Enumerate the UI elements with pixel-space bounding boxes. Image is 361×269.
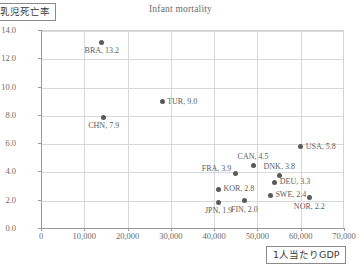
data-point-label: TUR, 9.0	[167, 97, 197, 106]
data-point-label: USA, 5.8	[306, 142, 336, 151]
data-point-label: CHN, 7.9	[88, 121, 119, 130]
x-axis-line	[41, 228, 345, 229]
gridline-horizontal	[41, 88, 343, 89]
gridline-vertical	[257, 31, 258, 228]
y-tick-mark	[38, 200, 41, 201]
gridline-horizontal	[41, 116, 343, 117]
data-point-label: NOR, 2.2	[294, 202, 325, 211]
y-tick-mark	[38, 143, 41, 144]
gridline-vertical	[84, 31, 85, 228]
data-point	[216, 200, 221, 205]
data-point-label: FIN, 2.0	[231, 205, 258, 214]
data-point-label: CAN, 4.5	[238, 152, 269, 161]
data-point-label: SWE, 2.4	[275, 190, 306, 199]
y-axis-line	[41, 30, 42, 229]
scatter-chart: 乳児死亡率 Infant mortality BRA, 13.2CHN, 7.9…	[0, 0, 361, 269]
x-tick-label: 70,000	[309, 231, 361, 241]
data-point-label: FRA, 3.9	[202, 164, 232, 173]
gridline-vertical	[128, 31, 129, 228]
gridline-horizontal	[41, 59, 343, 60]
data-point	[160, 99, 165, 104]
data-point	[99, 40, 104, 45]
y-tick-label: 12.0	[0, 53, 16, 63]
data-point-label: JPN, 1.9	[205, 206, 232, 215]
y-tick-mark	[38, 30, 41, 31]
y-tick-mark	[38, 87, 41, 88]
data-point	[233, 171, 238, 176]
data-point-label: DEU, 3.3	[280, 177, 310, 186]
data-point	[242, 198, 247, 203]
y-tick-label: 2.0	[0, 195, 16, 205]
data-point	[101, 115, 106, 120]
gridline-horizontal	[41, 172, 343, 173]
data-point-label: DNK, 3.8	[264, 162, 295, 171]
data-point	[268, 193, 273, 198]
y-tick-label: 8.0	[0, 110, 16, 120]
y-tick-mark	[38, 58, 41, 59]
y-tick-label: 6.0	[0, 138, 16, 148]
data-point	[307, 195, 312, 200]
y-tick-label: 14.0	[0, 25, 16, 35]
y-tick-label: 10.0	[0, 82, 16, 92]
y-tick-mark	[38, 115, 41, 116]
data-point	[216, 187, 221, 192]
gridline-vertical	[214, 31, 215, 228]
chart-title: Infant mortality	[0, 4, 361, 14]
gridline-vertical	[171, 31, 172, 228]
y-tick-label: 4.0	[0, 166, 16, 176]
data-point	[277, 173, 282, 178]
data-point	[251, 163, 256, 168]
x-axis-title: 1人当たりGDP	[266, 246, 346, 264]
gridline-horizontal	[41, 31, 343, 32]
data-point	[272, 180, 277, 185]
data-point-label: BRA, 13.2	[85, 46, 119, 55]
data-point	[298, 144, 303, 149]
data-point-label: KOR, 2.8	[223, 184, 254, 193]
y-tick-mark	[38, 171, 41, 172]
plot-area: BRA, 13.2CHN, 7.9TUR, 9.0FRA, 3.9CAN, 4.…	[41, 30, 344, 228]
